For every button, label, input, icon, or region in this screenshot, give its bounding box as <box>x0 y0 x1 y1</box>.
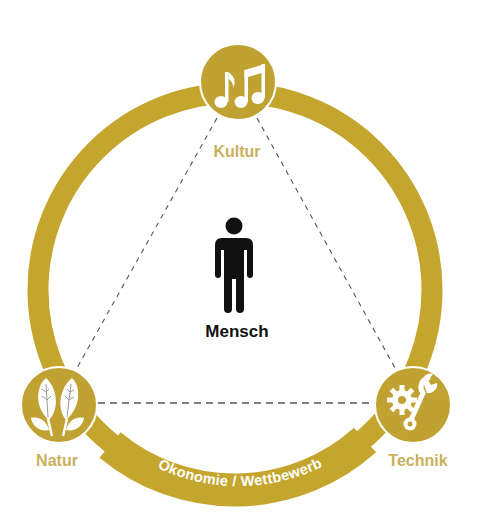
label-mensch: Mensch <box>205 322 268 342</box>
diagram-canvas: Ökonomie / Wettbewerb <box>0 0 481 527</box>
node-kultur <box>200 44 276 120</box>
node-natur <box>21 367 97 443</box>
node-technik <box>375 367 451 443</box>
label-natur: Natur <box>36 452 78 470</box>
person-icon <box>215 218 253 314</box>
label-technik: Technik <box>388 452 447 470</box>
label-kultur: Kultur <box>213 143 260 161</box>
